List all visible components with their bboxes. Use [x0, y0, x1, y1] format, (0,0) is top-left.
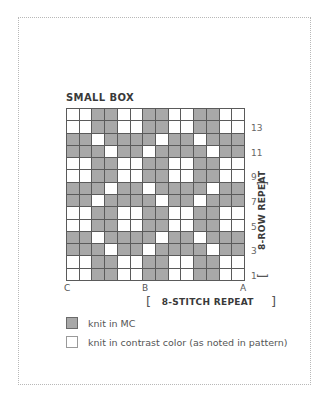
chart-cell: [194, 195, 207, 207]
row-number-5: 5: [251, 222, 257, 232]
chart-cell: [118, 195, 131, 207]
chart-cell: [220, 158, 233, 170]
chart-cell: [194, 134, 207, 146]
chart-cell: [67, 269, 80, 281]
chart-cell: [92, 195, 105, 207]
legend-item-mc: knit in MC: [66, 317, 135, 329]
chart-cell: [156, 109, 169, 121]
chart-cell: [131, 207, 144, 219]
chart-cell: [105, 220, 118, 232]
chart-cell: [80, 195, 93, 207]
chart-cell: [207, 195, 220, 207]
chart-cell: [131, 146, 144, 158]
chart-cell: [92, 220, 105, 232]
chart-cell: [143, 170, 156, 182]
knitting-chart-grid: [66, 108, 245, 281]
chart-cell: [181, 109, 194, 121]
column-label-a: A: [240, 283, 246, 293]
mc-swatch-icon: [66, 317, 78, 329]
chart-cell: [67, 195, 80, 207]
chart-cell: [105, 244, 118, 256]
chart-cell: [80, 269, 93, 281]
chart-cell: [118, 158, 131, 170]
chart-cell: [92, 158, 105, 170]
chart-cell: [143, 109, 156, 121]
chart-cell: [207, 256, 220, 268]
chart-cell: [156, 121, 169, 133]
chart-cell: [194, 232, 207, 244]
chart-cell: [156, 170, 169, 182]
chart-cell: [169, 183, 182, 195]
chart-cell: [131, 121, 144, 133]
chart-cell: [131, 195, 144, 207]
chart-cell: [232, 121, 245, 133]
chart-cell: [181, 121, 194, 133]
chart-cell: [92, 183, 105, 195]
chart-cell: [232, 170, 245, 182]
chart-cell: [194, 170, 207, 182]
chart-cell: [143, 195, 156, 207]
chart-cell: [131, 244, 144, 256]
chart-cell: [131, 269, 144, 281]
chart-cell: [181, 183, 194, 195]
chart-cell: [105, 183, 118, 195]
chart-cell: [118, 109, 131, 121]
chart-cell: [181, 146, 194, 158]
chart-cell: [232, 220, 245, 232]
chart-cell: [67, 183, 80, 195]
chart-cell: [169, 269, 182, 281]
chart-cell: [118, 232, 131, 244]
chart-cell: [105, 195, 118, 207]
chart-cell: [80, 121, 93, 133]
chart-cell: [92, 244, 105, 256]
chart-cell: [92, 232, 105, 244]
chart-cell: [207, 220, 220, 232]
chart-cell: [220, 183, 233, 195]
chart-cell: [232, 195, 245, 207]
chart-cell: [169, 207, 182, 219]
chart-cell: [194, 269, 207, 281]
chart-cell: [118, 146, 131, 158]
chart-cell: [67, 207, 80, 219]
chart-cell: [92, 146, 105, 158]
chart-cell: [118, 220, 131, 232]
chart-cell: [156, 256, 169, 268]
chart-cell: [156, 134, 169, 146]
chart-cell: [67, 232, 80, 244]
chart-cell: [67, 146, 80, 158]
chart-cell: [92, 269, 105, 281]
chart-cell: [169, 146, 182, 158]
chart-cell: [194, 146, 207, 158]
chart-cell: [143, 244, 156, 256]
chart-cell: [220, 134, 233, 146]
chart-cell: [181, 158, 194, 170]
chart-cell: [80, 170, 93, 182]
chart-cell: [181, 244, 194, 256]
chart-cell: [80, 220, 93, 232]
legend-label-contrast: knit in contrast color (as noted in patt…: [88, 337, 287, 348]
chart-cell: [105, 256, 118, 268]
chart-cell: [80, 207, 93, 219]
chart-cell: [207, 170, 220, 182]
chart-cell: [143, 232, 156, 244]
chart-cell: [67, 244, 80, 256]
chart-cell: [92, 134, 105, 146]
chart-cell: [143, 134, 156, 146]
column-label-b: B: [142, 283, 148, 293]
row-number-13: 13: [251, 123, 262, 133]
chart-cell: [80, 232, 93, 244]
chart-cell: [156, 232, 169, 244]
chart-cell: [80, 244, 93, 256]
chart-cell: [143, 256, 156, 268]
chart-cell: [105, 109, 118, 121]
chart-cell: [169, 109, 182, 121]
chart-cell: [118, 121, 131, 133]
chart-cell: [118, 269, 131, 281]
chart-cell: [207, 109, 220, 121]
chart-cell: [220, 170, 233, 182]
chart-cell: [181, 220, 194, 232]
chart-cell: [143, 121, 156, 133]
chart-cell: [143, 146, 156, 158]
chart-cell: [80, 183, 93, 195]
chart-cell: [131, 183, 144, 195]
